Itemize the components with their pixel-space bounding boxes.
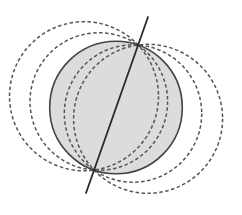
intersection-point-p1: [136, 43, 139, 46]
circles-through-two-points-diagram: [0, 0, 242, 215]
intersection-point-p2: [92, 168, 95, 171]
